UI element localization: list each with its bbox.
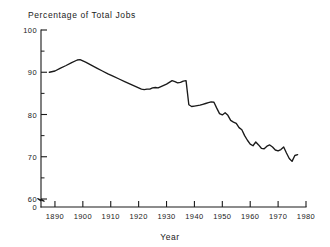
x-axis-title: Year: [160, 232, 180, 242]
x-tick-label-1980: 1980: [297, 212, 315, 221]
x-axis-ticks: [55, 201, 306, 207]
y-axis-ticks: [41, 30, 47, 199]
y-tick-label-70: 70: [28, 153, 37, 162]
x-tick-label-1970: 1970: [269, 212, 287, 221]
x-tick-label-1930: 1930: [157, 212, 175, 221]
x-tick-label-1950: 1950: [213, 212, 231, 221]
line-chart: Percentage of Total Jobs 60708090100 0 1…: [0, 0, 330, 247]
y-axis: 60708090100 0: [23, 26, 47, 212]
x-axis: 1890190019101920193019401950196019701980: [41, 201, 315, 221]
y-tick-label-80: 80: [28, 111, 37, 120]
data-series-line: [49, 60, 297, 162]
x-tick-label-1920: 1920: [129, 212, 147, 221]
y-axis-tick-labels: 60708090100: [23, 26, 37, 204]
y-axis-zero-label: 0: [32, 203, 37, 212]
x-tick-label-1890: 1890: [46, 212, 64, 221]
y-tick-label-100: 100: [23, 26, 37, 35]
x-tick-label-1900: 1900: [74, 212, 92, 221]
x-tick-label-1960: 1960: [241, 212, 259, 221]
x-tick-label-1910: 1910: [102, 212, 120, 221]
x-axis-tick-labels: 1890190019101920193019401950196019701980: [46, 212, 315, 221]
y-tick-label-90: 90: [28, 68, 37, 77]
chart-title: Percentage of Total Jobs: [28, 10, 136, 20]
x-tick-label-1940: 1940: [185, 212, 203, 221]
chart-container: Percentage of Total Jobs 60708090100 0 1…: [0, 0, 330, 247]
